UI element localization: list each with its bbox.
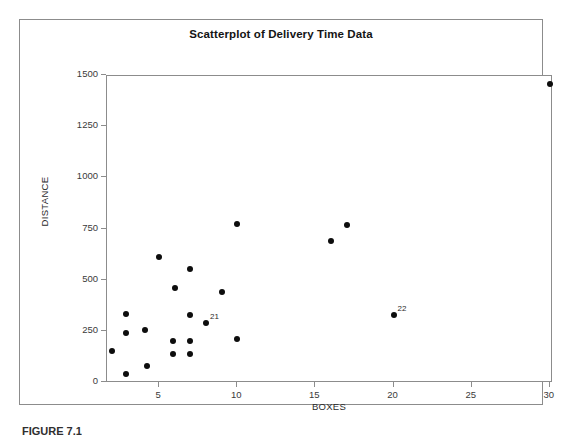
scatter-point <box>391 312 397 318</box>
scatter-point <box>219 289 225 295</box>
x-tick-mark <box>236 382 237 387</box>
scatter-point <box>234 336 240 342</box>
x-tick-label: 10 <box>231 389 242 400</box>
chart-title: Scatterplot of Delivery Time Data <box>20 28 542 40</box>
scatter-point <box>187 338 193 344</box>
scatter-point <box>123 371 129 377</box>
figure-caption: FIGURE 7.1 <box>22 425 82 438</box>
x-tick-label: 25 <box>465 389 476 400</box>
y-axis-title: DISTANCE <box>39 142 50 262</box>
scatter-point-label: 22 <box>398 304 407 313</box>
x-tick-mark <box>158 382 159 387</box>
scatter-point <box>328 238 334 244</box>
y-tick-label: 750 <box>82 222 98 233</box>
y-tick-label: 250 <box>82 324 98 335</box>
x-axis-title: BOXES <box>106 401 552 412</box>
scatter-point <box>123 330 129 336</box>
scatter-point <box>156 254 162 260</box>
scatter-point <box>142 327 148 333</box>
scatter-point <box>123 311 129 317</box>
scatter-point <box>187 312 193 318</box>
y-tick-mark <box>101 279 106 280</box>
scatter-point <box>187 351 193 357</box>
x-tick-label: 5 <box>155 389 160 400</box>
scatter-point-label: 21 <box>210 312 219 321</box>
y-tick-mark <box>101 125 106 126</box>
y-tick-mark <box>101 381 106 382</box>
x-tick-label: 20 <box>387 389 398 400</box>
figure-frame: Scatterplot of Delivery Time Data DISTAN… <box>19 19 543 405</box>
y-tick-label: 1500 <box>77 68 98 79</box>
x-tick-label: 15 <box>309 389 320 400</box>
x-tick-mark <box>549 382 550 387</box>
x-tick-mark <box>471 382 472 387</box>
y-tick-label: 500 <box>82 273 98 284</box>
scatter-point <box>170 351 176 357</box>
plot-area: 2122 <box>106 75 552 382</box>
scatter-point <box>234 221 240 227</box>
y-tick-mark <box>101 228 106 229</box>
scatter-point <box>172 285 178 291</box>
x-tick-mark <box>314 382 315 387</box>
scatter-point <box>187 266 193 272</box>
scatter-point <box>109 348 115 354</box>
y-tick-mark <box>101 330 106 331</box>
scatter-point <box>144 363 150 369</box>
x-tick-label: 30 <box>544 389 555 400</box>
scatter-point <box>203 320 209 326</box>
y-tick-mark <box>101 176 106 177</box>
x-tick-mark <box>393 382 394 387</box>
y-tick-label: 0 <box>93 375 98 386</box>
scatter-point <box>170 338 176 344</box>
y-tick-label: 1250 <box>77 119 98 130</box>
scatter-point <box>344 222 350 228</box>
scatter-point <box>547 81 553 87</box>
y-tick-label: 1000 <box>77 170 98 181</box>
y-tick-mark <box>101 74 106 75</box>
